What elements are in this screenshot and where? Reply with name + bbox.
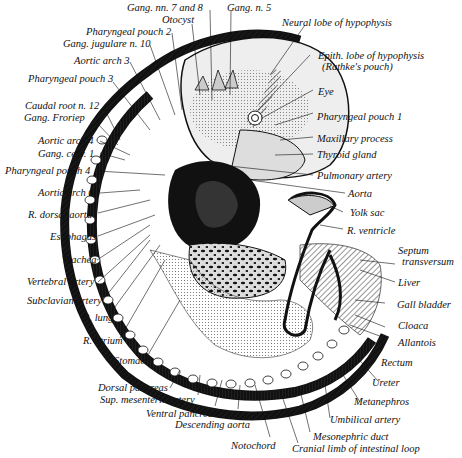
label-notochord: Notochord: [231, 440, 276, 451]
label-eye: Eye: [318, 86, 334, 97]
label-liver: Liver: [398, 277, 420, 288]
label-r-dorsal-aorta: R. dorsal aorta: [28, 209, 92, 220]
label-gang-cerv: Gang. cerv. 1: [38, 148, 94, 159]
label-pulmonary-artery: Pulmonary artery: [317, 170, 392, 181]
label-gang-nn-7-8: Gang. nn. 7 and 8: [127, 2, 203, 13]
label-sup-mesenteric: Sup. mesenteric artery: [100, 394, 195, 405]
label-ureter: Ureter: [372, 377, 400, 388]
label-vertebral-artery: Vertebral artery: [27, 276, 94, 287]
eye: [248, 111, 262, 125]
label-gall-bladder: Gall bladder: [397, 299, 451, 310]
label-esophagus: Esophagus: [50, 231, 96, 242]
label-maxillary-process: Maxillary process: [317, 133, 393, 144]
label-pharyngeal-pouch-4: Pharyngeal pouch 4: [5, 165, 90, 176]
label-umbilical-artery: Umbilical artery: [330, 414, 400, 425]
label-aorta: Aorta: [348, 188, 372, 199]
label-metanephros: Metanephros: [354, 396, 409, 407]
label-thyroid-gland: Thyroid gland: [317, 149, 376, 160]
label-aortic-arch-4: Aortic arch 4: [38, 135, 94, 146]
label-otocyst: Otocyst: [162, 14, 194, 25]
label-descending-aorta: Descending aorta: [175, 419, 250, 430]
label-dorsal-pancreas: Dorsal pancreas: [98, 382, 168, 393]
label-caudal-root: Caudal root n. 12: [25, 100, 99, 111]
label-cranial-limb: Cranial limb of intestinal loop: [292, 443, 420, 454]
label-pharyngeal-pouch-3: Pharyngeal pouch 3: [28, 73, 113, 84]
label-gang-n5: Gang. n. 5: [227, 2, 271, 13]
label-r-ventricle: R. ventricle: [347, 225, 395, 236]
label-cloaca: Cloaca: [398, 320, 428, 331]
label-stomach: Stomach: [114, 355, 150, 366]
label-ventral-pancreas: Ventral pancreas: [146, 408, 217, 419]
label-yolk-sac: Yolk sac: [350, 207, 384, 218]
label-neural-lobe: Neural lobe of hypophysis: [282, 17, 392, 28]
label-epith-lobe-2: (Rathke's pouch): [322, 61, 393, 72]
label-epith-lobe-1: Epith. lobe of hypophysis: [318, 50, 424, 61]
label-septum-2: transversum: [402, 256, 454, 267]
label-mesonephric-duct: Mesonephric duct: [313, 431, 389, 442]
label-allantois: Allantois: [398, 337, 436, 348]
label-r-lung: R. lung: [83, 312, 113, 323]
label-subclavian-artery: Subclavian artery: [27, 295, 102, 306]
label-aortic-arch-3: Aortic arch 3: [74, 55, 130, 66]
label-r-atrium: R. atrium: [83, 335, 123, 346]
label-aortic-arch-6: Aortic arch 6: [38, 187, 94, 198]
label-gang-jugulare: Gang. jugulare n. 10: [63, 38, 150, 49]
label-rectum: Rectum: [381, 357, 413, 368]
label-pharyngeal-pouch-2: Pharyngeal pouch 2: [86, 26, 171, 37]
label-septum-1: Septum: [398, 245, 429, 256]
label-trachea: Trachea: [62, 254, 96, 265]
label-pharyngeal-pouch-1: Pharyngeal pouch 1: [317, 111, 402, 122]
label-gang-froriep: Gang. Froriep: [24, 112, 85, 123]
